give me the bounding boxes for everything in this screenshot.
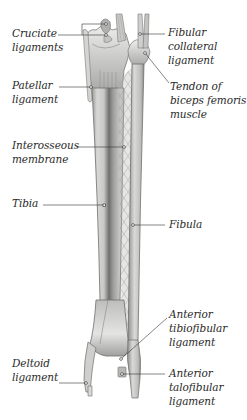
leg-bones-diagram: Cruciate ligaments Patellar ligament Int… bbox=[0, 0, 247, 420]
label-patellar-ligament: Patellar ligament bbox=[12, 78, 58, 106]
label-deltoid-ligament: Deltoid ligament bbox=[12, 356, 58, 384]
fibula-proximal bbox=[128, 14, 150, 66]
label-interosseous-membrane: Interosseous membrane bbox=[12, 138, 79, 166]
label-anterior-talofibular-ligament: Anterior talofibular ligament bbox=[169, 366, 223, 408]
label-tendon-biceps-femoris: Tendon of biceps femoris muscle bbox=[170, 79, 246, 121]
label-tibia: Tibia bbox=[12, 196, 38, 210]
label-fibular-collateral-ligament: Fibular collateral ligament bbox=[168, 25, 217, 67]
tibia-distal bbox=[84, 300, 129, 396]
label-fibula: Fibula bbox=[169, 217, 202, 231]
label-cruciate-ligaments: Cruciate ligaments bbox=[12, 26, 63, 54]
label-anterior-tibiofibular-ligament: Anterior tibiofibular ligament bbox=[169, 307, 227, 349]
